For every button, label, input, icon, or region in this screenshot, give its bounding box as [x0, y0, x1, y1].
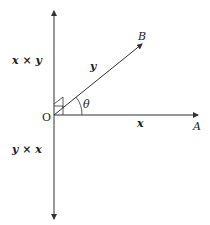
label-point-a: A	[192, 120, 201, 133]
label-upper-product: x × y	[11, 54, 43, 67]
label-vector-a: x	[136, 117, 144, 130]
label-point-b: B	[137, 30, 146, 43]
vector-b	[54, 44, 142, 115]
label-vector-b: y	[89, 60, 98, 73]
diagram-canvas: x × y y × x y x B A O θ	[0, 0, 210, 225]
label-angle-theta: θ	[83, 98, 90, 111]
label-lower-product: y × x	[11, 143, 42, 156]
label-origin: O	[42, 111, 51, 124]
angle-theta-arc	[76, 97, 82, 115]
